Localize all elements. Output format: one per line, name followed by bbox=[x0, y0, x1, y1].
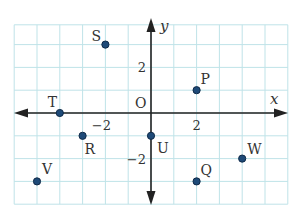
coordinate-plane: x y O −222−2 SPTRUWQV bbox=[0, 0, 294, 215]
point-label: P bbox=[201, 71, 210, 87]
x-axis-left-arrow bbox=[14, 109, 28, 118]
tick-label-x: 2 bbox=[192, 118, 200, 133]
y-axis-label: y bbox=[159, 17, 169, 35]
point-label: Q bbox=[201, 162, 212, 178]
tick-label-x: −2 bbox=[92, 118, 111, 133]
x-axis-label: x bbox=[270, 90, 279, 108]
point-marker bbox=[193, 87, 200, 94]
point-marker bbox=[239, 155, 246, 162]
point-marker bbox=[193, 178, 200, 185]
point-marker bbox=[102, 41, 109, 48]
point-s: S bbox=[91, 28, 109, 49]
point-marker bbox=[79, 132, 86, 139]
point-label: R bbox=[85, 141, 96, 157]
point-marker bbox=[147, 132, 154, 139]
axes bbox=[14, 18, 288, 205]
origin-label: O bbox=[135, 95, 146, 111]
point-marker bbox=[33, 178, 40, 185]
point-label: S bbox=[91, 28, 101, 44]
point-label: W bbox=[247, 141, 262, 157]
point-marker bbox=[56, 109, 63, 116]
tick-label-y: −2 bbox=[127, 152, 146, 167]
point-label: U bbox=[157, 140, 169, 156]
point-label: V bbox=[41, 161, 53, 177]
points: SPTRUWQV bbox=[33, 28, 262, 185]
tick-label-y: 2 bbox=[138, 60, 146, 75]
x-axis-right-arrow bbox=[274, 109, 288, 118]
y-axis-down-arrow bbox=[147, 191, 156, 205]
point-label: T bbox=[48, 94, 58, 110]
